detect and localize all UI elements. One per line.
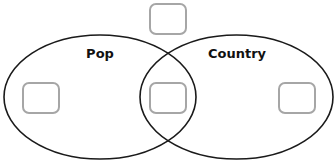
pop-set-label: Pop: [86, 46, 114, 62]
pop-only-region-drop-box[interactable]: [22, 82, 60, 114]
outside-region-drop-box[interactable]: [149, 3, 187, 35]
venn-diagram: Pop Country: [0, 0, 334, 160]
country-set-label: Country: [208, 46, 266, 62]
country-only-region-drop-box[interactable]: [278, 82, 316, 114]
both-region-drop-box[interactable]: [149, 82, 187, 114]
